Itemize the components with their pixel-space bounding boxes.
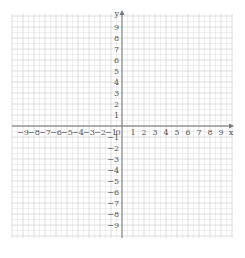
x-tick-label: 4 (163, 128, 168, 137)
y-arrow-icon (120, 10, 125, 15)
y-tick-label: 5 (114, 67, 119, 76)
y-tick-label: −5 (107, 177, 119, 186)
y-tick-label: 1 (114, 111, 119, 120)
y-tick-label: 6 (114, 56, 119, 65)
y-tick-label: −7 (107, 199, 119, 208)
y-tick-label: −8 (107, 210, 119, 219)
y-tick-label: 2 (114, 100, 119, 109)
y-tick-label: −3 (107, 155, 119, 164)
x-tick-label: 5 (174, 128, 179, 137)
y-tick-label: 7 (114, 45, 119, 54)
y-tick-label: 9 (114, 23, 119, 32)
y-tick-label: −1 (107, 133, 119, 142)
tick-labels: −9−8−7−6−5−4−3−2−1123456789x0987654321−1… (17, 9, 234, 230)
y-axis-label: y (113, 9, 119, 18)
x-axis-label: x (229, 128, 234, 137)
y-tick-label: 8 (114, 34, 119, 43)
coordinate-plane: −9−8−7−6−5−4−3−2−1123456789x0987654321−1… (0, 0, 245, 258)
y-tick-label: 4 (114, 78, 119, 87)
y-tick-label: −6 (107, 188, 119, 197)
y-tick-label: 3 (114, 89, 119, 98)
x-tick-label: 8 (207, 128, 212, 137)
x-tick-label: 2 (141, 128, 146, 137)
y-tick-label: −2 (107, 144, 119, 153)
x-tick-label: 3 (152, 128, 157, 137)
x-tick-label: 6 (185, 128, 190, 137)
x-tick-label: 7 (196, 128, 201, 137)
x-tick-label: 1 (130, 128, 135, 137)
y-tick-label: −4 (107, 166, 119, 175)
x-tick-label: 9 (218, 128, 223, 137)
y-tick-label: −9 (107, 221, 119, 230)
